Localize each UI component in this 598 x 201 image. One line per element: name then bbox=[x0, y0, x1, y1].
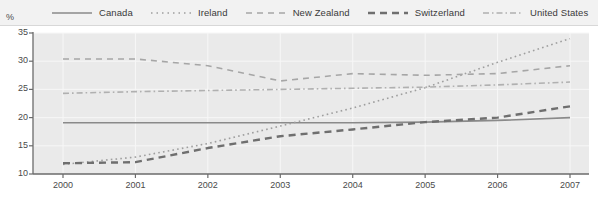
legend-label-ireland: Ireland bbox=[198, 7, 228, 18]
y-axis-tick-label: 10 bbox=[6, 168, 28, 178]
legend-line-ireland-icon bbox=[151, 8, 191, 18]
legend-item-switzerland[interactable]: Switzerland bbox=[368, 7, 465, 18]
legend-item-united-states[interactable]: United States bbox=[483, 7, 588, 18]
y-axis-tick-label: 30 bbox=[6, 55, 28, 65]
y-axis-tick-label: 35 bbox=[6, 27, 28, 37]
y-axis-tick-label: 15 bbox=[6, 140, 28, 150]
x-axis-tick-label: 2003 bbox=[260, 180, 300, 190]
legend-label-canada: Canada bbox=[99, 7, 133, 18]
legend-item-ireland[interactable]: Ireland bbox=[151, 7, 228, 18]
legend-item-canada[interactable]: Canada bbox=[52, 7, 133, 18]
legend-label-switzerland: Switzerland bbox=[415, 7, 465, 18]
x-axis-tick-label: 2002 bbox=[188, 180, 228, 190]
legend-label-united-states: United States bbox=[530, 7, 588, 18]
x-axis-tick-label: 2007 bbox=[550, 180, 590, 190]
x-axis-tick-label: 2000 bbox=[43, 180, 83, 190]
legend-line-canada-icon bbox=[52, 8, 92, 18]
x-axis-tick-labels: 20002001200220032004200520062007 bbox=[0, 180, 598, 196]
x-axis-tick-label: 2001 bbox=[115, 180, 155, 190]
y-axis-tick-label: 20 bbox=[6, 112, 28, 122]
plot-area bbox=[33, 33, 589, 174]
legend-item-new-zealand[interactable]: New Zealand bbox=[246, 7, 350, 18]
x-axis-tick-label: 2005 bbox=[405, 180, 445, 190]
y-axis-tick-labels: 101520253035 bbox=[3, 0, 28, 201]
legend-line-switzerland-icon bbox=[368, 8, 408, 18]
x-axis-tick-label: 2004 bbox=[333, 180, 373, 190]
legend-line-united-states-icon bbox=[483, 8, 523, 18]
y-axis-tick-label: 25 bbox=[6, 83, 28, 93]
chart-legend: Canada Ireland New Zealand Switzerland U… bbox=[0, 0, 598, 26]
legend-label-new-zealand: New Zealand bbox=[293, 7, 350, 18]
x-axis-tick-label: 2006 bbox=[478, 180, 518, 190]
line-chart: Canada Ireland New Zealand Switzerland U… bbox=[0, 0, 598, 201]
legend-line-new-zealand-icon bbox=[246, 8, 286, 18]
